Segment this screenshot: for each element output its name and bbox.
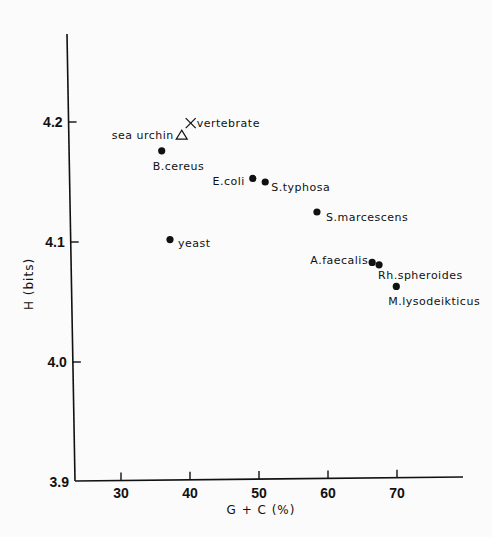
x-ticks: 3040506070 [113,470,405,501]
y-tick-label: 4.1 [45,234,65,250]
y-axis-line [67,34,75,481]
y-axis-title: H (bits) [22,258,36,310]
point-sea-urchin-triangle-icon [176,130,187,139]
point-labels: vertebratesea urchinB.cereusE.coliS.typh… [112,117,480,308]
point-e-coli [249,175,256,182]
x-tick-label: 30 [113,485,129,501]
point-s-typhosa [262,178,269,185]
label-s-typhosa: S.typhosa [271,181,330,194]
point-vertebrate-x-icon [186,118,196,128]
axes [67,34,463,481]
label-m-lysodeikticus: M.lysodeikticus [388,295,480,308]
y-tick-label: 3.9 [50,474,70,490]
x-tick-label: 70 [389,485,405,501]
point-yeast [166,236,173,243]
y-ticks: 3.94.04.14.2 [43,114,81,490]
label-vertebrate: vertebrate [197,117,260,130]
x-axis-line [75,477,463,481]
point-s-marcescens [313,208,320,215]
scatter-plot: 3.94.04.14.2 3040506070 G + C (%) H (bit… [0,0,492,537]
point-a-faecalis [369,259,376,266]
label-sea-urchin: sea urchin [112,129,174,142]
point-b-cereus [158,147,165,154]
label-a-faecalis: A.faecalis [310,254,368,267]
y-tick-label: 4.2 [43,114,63,130]
label-s-marcescens: S.marcescens [326,211,408,224]
y-tick-label: 4.0 [47,354,67,370]
label-yeast: yeast [178,237,211,250]
x-axis-title: G + C (%) [227,503,296,517]
x-tick-label: 60 [320,485,336,501]
x-tick-label: 50 [251,485,267,501]
x-tick-label: 40 [182,485,198,501]
label-rh-spheroides: Rh.spheroides [378,269,463,282]
label-e-coli: E.coli [212,175,244,188]
label-b-cereus: B.cereus [153,160,205,173]
point-rh-spheroides [375,261,382,268]
point-m-lysodeikticus [393,283,400,290]
